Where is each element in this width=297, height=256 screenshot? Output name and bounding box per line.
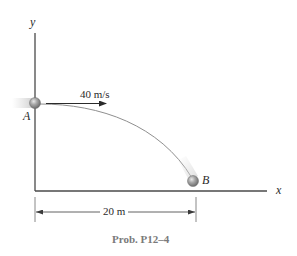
diagram-canvas: [0, 0, 297, 256]
velocity-label: 40 m/s: [80, 89, 110, 100]
distance-label: 20 m: [100, 206, 128, 217]
projectile-diagram: y x A B 40 m/s 20 m Prob. P12–4: [0, 0, 297, 256]
point-a-label: A: [23, 110, 30, 122]
motion-blur-a: [12, 98, 32, 108]
trajectory-curve: [40, 104, 192, 178]
x-axis-label: x: [276, 184, 281, 196]
point-b-label: B: [202, 174, 209, 186]
ball-a-icon: [30, 98, 41, 109]
ball-b-icon: [188, 176, 199, 187]
figure-caption: Prob. P12–4: [112, 234, 169, 245]
y-axis-label: y: [30, 16, 35, 28]
